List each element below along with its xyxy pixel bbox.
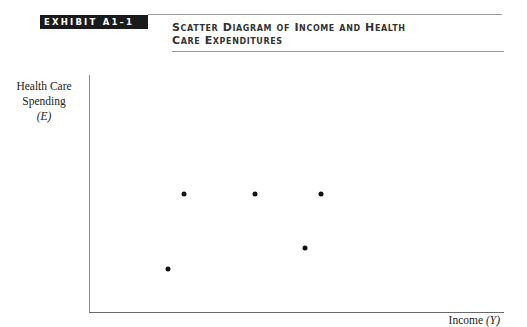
y-label-variable: (E): [10, 109, 78, 124]
y-label-line-2: Spending: [10, 94, 78, 109]
y-label-line-1: Health Care: [10, 79, 78, 94]
data-point: [253, 191, 258, 196]
x-axis-label: Income (Y): [449, 314, 500, 327]
exhibit-label: EXHIBIT A1–1: [40, 15, 148, 29]
title-line-2: Care Expenditures: [172, 34, 502, 47]
title-line-1: Scatter Diagram of Income and Health: [172, 21, 502, 34]
x-label-variable: (Y): [486, 314, 500, 326]
data-point: [302, 246, 307, 251]
data-point: [165, 267, 170, 272]
chart-title: Scatter Diagram of Income and Health Car…: [172, 21, 502, 47]
x-axis: [89, 312, 504, 313]
data-point: [182, 191, 187, 196]
top-rule: [148, 14, 502, 15]
bottom-rule: [172, 51, 504, 52]
x-label-text: Income: [449, 314, 486, 326]
y-axis-label: Health Care Spending (E): [10, 79, 78, 124]
data-point: [319, 191, 324, 196]
plot-area: [89, 75, 504, 312]
